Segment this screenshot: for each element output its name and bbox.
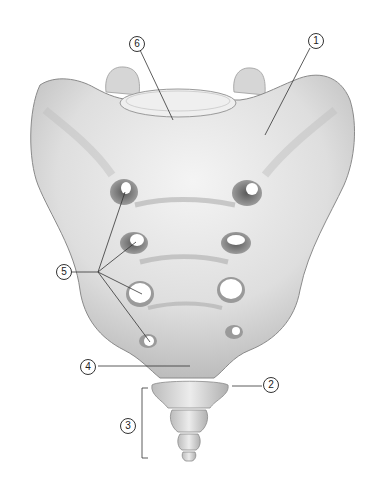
- label-1: 1: [308, 33, 324, 49]
- label-4: 4: [80, 359, 96, 375]
- sacrum-body: [31, 75, 355, 378]
- sacrum-diagram: 1 2 3 4 5 6: [0, 0, 378, 489]
- label-2: 2: [263, 377, 279, 393]
- coccyx: [152, 381, 228, 461]
- label-6: 6: [129, 36, 145, 52]
- label-3: 3: [120, 418, 136, 434]
- sacral-base: [120, 89, 236, 117]
- label-5: 5: [56, 264, 72, 280]
- sacrum-illustration: [0, 0, 378, 489]
